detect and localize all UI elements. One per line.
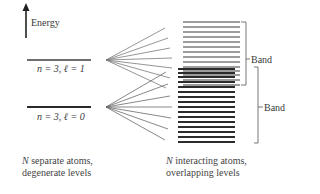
right-caption-line1: interacting atoms, (173, 155, 247, 166)
lower-level-label: n = 3, ℓ = 0 (37, 111, 85, 122)
left-caption-line2: degenerate levels (22, 167, 91, 178)
lower-band-label: Band (264, 102, 285, 113)
fan-lines-lower (106, 72, 172, 140)
energy-axis-label: Energy (31, 17, 60, 28)
lower-band-bracket (254, 67, 263, 143)
right-caption-line2: overlapping levels (166, 167, 240, 178)
upper-band-label: Band (251, 54, 272, 65)
fan-lines-upper (106, 28, 172, 88)
left-caption: N separate atoms, degenerate levels (22, 155, 93, 179)
left-caption-line1: separate atoms, (29, 155, 93, 166)
left-caption-n: N (22, 155, 29, 166)
upper-level-label: n = 3, ℓ = 1 (37, 63, 85, 74)
up-arrow-icon (23, 3, 30, 38)
upper-band-lines (183, 22, 240, 85)
upper-band-bracket (241, 22, 250, 85)
right-caption: N interacting atoms, overlapping levels (166, 155, 247, 179)
right-caption-n: N (166, 155, 173, 166)
